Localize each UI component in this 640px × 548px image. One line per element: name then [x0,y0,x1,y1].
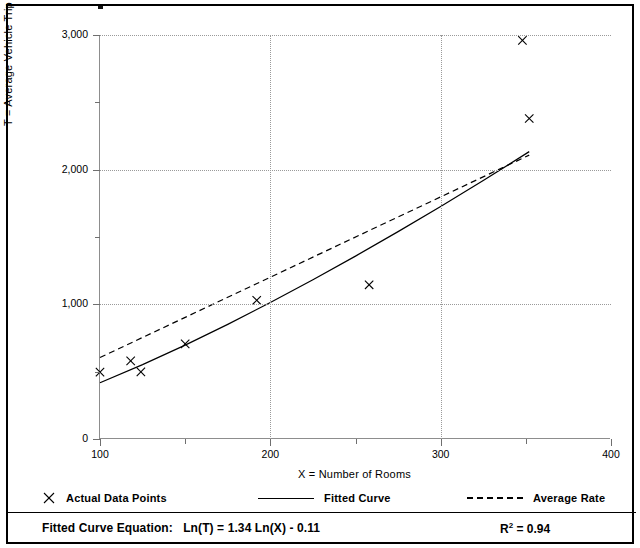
y-axis-tick [93,439,100,440]
dashed-line-icon [467,497,523,499]
figure-frame: T = Average Vehicle Trip Ends 01,0002,00… [6,4,634,544]
x-axis-tick-label: 200 [250,449,290,460]
series-layer [100,35,611,439]
data-point-marker [365,281,373,289]
fitted-curve-equation: Fitted Curve Equation: Ln(T) = 1.34 Ln(X… [42,521,320,535]
x-axis-tick-label: 300 [421,449,461,460]
y-axis-minor-tick [95,102,100,103]
y-axis-tick-label: 0 [40,433,88,444]
legend-item[interactable]: Actual Data Points [42,489,167,507]
y-axis-minor-tick [95,237,100,238]
x-axis-tick [611,439,612,446]
chart-region: T = Average Vehicle Trip Ends 01,0002,00… [8,6,636,476]
y-axis-tick [93,170,100,171]
data-point-marker [253,296,261,304]
x-marker-icon [42,491,56,505]
r-squared-value: R2 = 0.94 [500,521,550,536]
r2-number: = 0.94 [516,522,550,536]
x-axis-title: X = Number of Rooms [99,468,610,480]
y-axis-tick-label: 3,000 [40,29,88,40]
y-axis-tick [93,35,100,36]
y-axis-minor-tick [95,372,100,373]
x-axis-tick-label: 400 [591,449,631,460]
legend-label: Fitted Curve [324,492,391,504]
solid-line-icon [258,498,314,499]
r2-exponent: 2 [509,521,513,530]
legend-item[interactable]: Fitted Curve [258,489,391,507]
equation-label: Fitted Curve Equation: [42,521,173,535]
y-axis-title: T = Average Vehicle Trip Ends [2,0,14,126]
average-rate-line [100,155,529,357]
chart-legend: Actual Data PointsFitted CurveAverage Ra… [8,489,636,511]
data-point-marker [525,114,533,122]
data-point-marker [126,357,134,365]
x-axis-tick [100,439,101,446]
x-axis-tick [441,439,442,446]
y-axis-tick-label: 1,000 [40,298,88,309]
legend-label: Actual Data Points [66,492,167,504]
x-axis-tick [270,439,271,446]
y-axis-tick [93,304,100,305]
x-axis-tick-label: 100 [80,449,120,460]
fitted-curve-line [100,152,529,383]
equation-value: Ln(T) = 1.34 Ln(X) - 0.11 [183,521,320,535]
r2-label: R [500,522,509,536]
y-axis-tick-label: 2,000 [40,164,88,175]
x-axis-minor-tick [185,439,186,444]
plot-area: 01,0002,0003,000100200300400 [99,35,610,439]
legend-item[interactable]: Average Rate [467,489,605,507]
data-point-marker [518,36,526,44]
footer-row: Fitted Curve Equation: Ln(T) = 1.34 Ln(X… [8,513,636,544]
data-point-marker [137,368,145,376]
x-axis-minor-tick [356,439,357,444]
legend-label: Average Rate [533,492,605,504]
x-axis-minor-tick [526,439,527,444]
